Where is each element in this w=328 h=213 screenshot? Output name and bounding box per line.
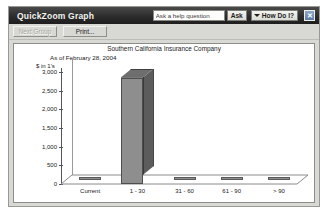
chart-bar[interactable] bbox=[221, 177, 243, 180]
y-axis-tick-label: 2,000 bbox=[15, 106, 57, 112]
y-axis-tick-label: 1,000 bbox=[15, 144, 57, 150]
y-axis-depth-line bbox=[72, 59, 73, 175]
chart-bar[interactable] bbox=[174, 177, 196, 180]
window-title: QuickZoom Graph bbox=[17, 11, 94, 21]
chart-panel: Southern California Insurance Company As… bbox=[13, 43, 315, 203]
help-question-input[interactable] bbox=[153, 10, 225, 21]
chart-bar[interactable] bbox=[268, 177, 290, 180]
chart-bar[interactable] bbox=[79, 177, 101, 180]
print-button[interactable]: Print... bbox=[63, 26, 107, 37]
how-do-i-dropdown[interactable]: How Do I? bbox=[251, 10, 298, 21]
toolbar: Next Group Print... bbox=[9, 24, 319, 40]
y-axis-tick-mark bbox=[59, 165, 63, 166]
y-axis-tick-mark bbox=[59, 109, 63, 110]
y-axis-tick-label: 500 bbox=[15, 162, 57, 168]
chart-bar-side-face bbox=[143, 69, 154, 175]
x-axis-tick-label: Current bbox=[80, 188, 100, 194]
x-axis-tick-label: 31 - 60 bbox=[175, 188, 194, 194]
close-icon[interactable]: ✕ bbox=[304, 10, 315, 21]
y-axis-tick-mark bbox=[59, 147, 63, 148]
next-group-button[interactable]: Next Group bbox=[13, 26, 57, 37]
ask-button[interactable]: Ask bbox=[227, 10, 247, 21]
chart-bar-front-face bbox=[121, 78, 143, 184]
y-axis-tick-label: 3,000 bbox=[15, 69, 57, 75]
quickzoom-graph-window: QuickZoom Graph Ask How Do I? ✕ Next Gro… bbox=[8, 6, 320, 207]
y-axis-tick-label: 2,500 bbox=[15, 88, 57, 94]
y-axis-tick-mark bbox=[59, 72, 63, 73]
y-axis-tick-mark bbox=[59, 91, 63, 92]
how-do-i-label: How Do I? bbox=[262, 12, 294, 19]
y-axis-tick-label: 0 bbox=[15, 181, 57, 187]
plot-area: 05001,0001,5002,0002,5003,000Current1 - … bbox=[14, 44, 315, 203]
x-axis-tick-label: > 90 bbox=[273, 188, 285, 194]
y-axis-tick-label: 1,500 bbox=[15, 125, 57, 131]
y-axis-tick-mark bbox=[59, 128, 63, 129]
x-axis-tick-label: 1 - 30 bbox=[130, 188, 145, 194]
y-axis-line bbox=[61, 68, 62, 184]
chevron-down-icon bbox=[254, 14, 260, 17]
x-axis-tick-label: 61 - 90 bbox=[222, 188, 241, 194]
title-bar: QuickZoom Graph Ask How Do I? ✕ bbox=[9, 7, 319, 24]
chart-bar[interactable] bbox=[121, 69, 154, 184]
y-axis-tick-mark bbox=[59, 184, 63, 185]
